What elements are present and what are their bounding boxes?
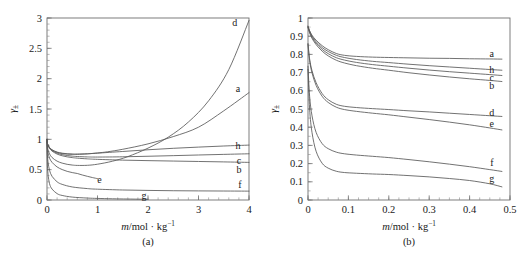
- curve-label-f: f: [238, 179, 242, 190]
- plot-area-b: 00.10.20.30.40.500.10.20.30.40.50.60.70.…: [268, 13, 517, 248]
- panel-caption: (b): [403, 236, 416, 248]
- curve-f: [308, 66, 502, 171]
- y-tick-label: 1: [37, 134, 42, 145]
- x-tick-label: 0: [305, 204, 310, 215]
- plot-frame: [47, 18, 249, 200]
- x-tick-label: 0.1: [342, 204, 355, 215]
- x-tick-label: 0: [44, 204, 49, 215]
- y-tick-label: 3: [37, 13, 42, 24]
- x-tick-label: 1: [95, 204, 100, 215]
- curve-label-a: a: [236, 83, 241, 94]
- curve-d: [308, 43, 502, 116]
- y-tick-label: 0.3: [290, 140, 303, 151]
- curve-g: [308, 69, 502, 187]
- x-tick-label: 3: [196, 204, 201, 215]
- y-tick-label: 2.5: [29, 43, 42, 54]
- curve-label-b: b: [489, 80, 494, 91]
- x-tick-label: 0.5: [503, 204, 516, 215]
- y-tick-label: 0.4: [290, 122, 304, 133]
- chart-svg-b: 00.10.20.30.40.500.10.20.30.40.50.60.70.…: [261, 0, 521, 262]
- curve-b: [47, 139, 249, 162]
- y-tick-label: 0.5: [290, 104, 303, 115]
- y-tick-label: 1.5: [29, 104, 42, 115]
- y-axis-title: γ±: [7, 105, 20, 113]
- curve-h: [47, 139, 249, 154]
- plot-area-a: 0123400.511.522.53γ±m/mol · kg−1(a)abcde…: [7, 13, 252, 248]
- curve-label-b: b: [236, 164, 241, 175]
- figure-container: 0123400.511.522.53γ±m/mol · kg−1(a)abcde…: [0, 0, 521, 262]
- y-tick-label: 0.6: [290, 85, 303, 96]
- plot-frame: [308, 18, 510, 200]
- curve-label-d: d: [232, 17, 237, 28]
- curve-a: [308, 26, 502, 59]
- curve-label-g: g: [141, 190, 146, 201]
- curve-label-g: g: [489, 173, 494, 184]
- chart-svg-a: 0123400.511.522.53γ±m/mol · kg−1(a)abcde…: [0, 0, 260, 262]
- y-tick-label: 0.7: [290, 67, 303, 78]
- y-tick-label: 0: [298, 195, 303, 206]
- x-tick-label: 0.2: [382, 204, 395, 215]
- curve-label-c: c: [237, 155, 242, 166]
- x-axis-title: m/mol · kg−1: [121, 220, 175, 232]
- curve-a: [47, 93, 249, 155]
- x-axis-title: m/mol · kg−1: [382, 220, 436, 232]
- curve-e: [308, 44, 502, 130]
- y-tick-label: 2: [37, 73, 42, 84]
- y-tick-label: 0.9: [290, 31, 303, 42]
- y-tick-label: 1: [298, 13, 303, 24]
- chart-panel-a: 0123400.511.522.53γ±m/mol · kg−1(a)abcde…: [0, 0, 260, 262]
- y-tick-label: 0.8: [290, 49, 303, 60]
- chart-panel-b: 00.10.20.30.40.500.10.20.30.40.50.60.70.…: [261, 0, 521, 262]
- panel-caption: (a): [142, 236, 154, 248]
- curve-label-e: e: [97, 174, 102, 185]
- y-axis-title: γ±: [268, 105, 281, 113]
- y-tick-label: 0.5: [29, 164, 42, 175]
- x-tick-label: 4: [246, 204, 252, 215]
- x-tick-label: 2: [145, 204, 150, 215]
- y-tick-label: 0: [37, 195, 42, 206]
- x-tick-label: 0.3: [423, 204, 436, 215]
- y-tick-label: 0.2: [290, 158, 303, 169]
- curve-label-f: f: [490, 157, 494, 168]
- x-tick-label: 0.4: [463, 204, 477, 215]
- y-tick-label: 0.1: [290, 176, 303, 187]
- curve-label-d: d: [489, 107, 494, 118]
- curve-label-e: e: [490, 118, 495, 129]
- curve-h: [308, 26, 502, 70]
- curve-label-h: h: [235, 140, 240, 151]
- curve-label-a: a: [490, 48, 495, 59]
